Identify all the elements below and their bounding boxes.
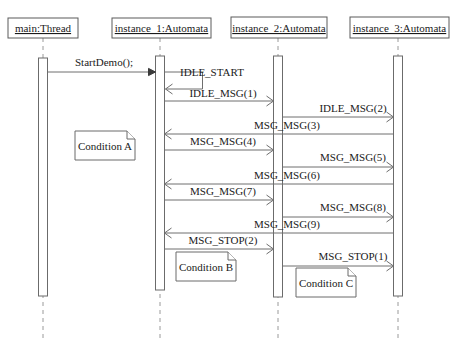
lifeline-label-instance_2: instance_2:Automata bbox=[232, 22, 326, 34]
sequence-diagram-canvas: main:Threadinstance_1:Automatainstance_2… bbox=[0, 0, 461, 343]
message-label-m12: MSG_STOP(2) bbox=[189, 234, 258, 247]
lifeline-label-instance_1: instance_1:Automata bbox=[115, 22, 209, 34]
message-label-m2: IDLE_START bbox=[180, 66, 244, 78]
message-m9[interactable]: MSG_MSG(7) bbox=[165, 185, 274, 205]
note-fold-icon-note_a bbox=[127, 131, 135, 139]
activation-bar-instance_3[interactable] bbox=[394, 56, 403, 296]
lifeline-main: main:Thread bbox=[8, 18, 78, 338]
lifeline-label-main: main:Thread bbox=[15, 22, 72, 34]
note-fold-icon-note_c bbox=[348, 268, 356, 276]
message-label-m10: MSG_MSG(8) bbox=[320, 201, 386, 214]
note-note_c[interactable]: Condition C bbox=[296, 268, 356, 297]
message-label-m4: IDLE_MSG(2) bbox=[319, 102, 387, 115]
message-label-m13: MSG_STOP(1) bbox=[319, 250, 388, 263]
activation-bar-main[interactable] bbox=[39, 58, 48, 296]
message-label-m1: StartDemo(); bbox=[75, 56, 133, 69]
arrowhead-m1 bbox=[149, 68, 156, 75]
message-m3[interactable]: IDLE_MSG(1) bbox=[165, 87, 274, 106]
note-note_b[interactable]: Condition B bbox=[176, 252, 236, 281]
note-label-note_c: Condition C bbox=[299, 277, 353, 289]
message-m6[interactable]: MSG_MSG(4) bbox=[165, 135, 274, 155]
message-label-m7: MSG_MSG(5) bbox=[320, 151, 386, 164]
sequence-diagram-svg: main:Threadinstance_1:Automatainstance_2… bbox=[0, 0, 461, 343]
message-label-m6: MSG_MSG(4) bbox=[190, 135, 256, 148]
message-label-m5: MSG_MSG(3) bbox=[254, 119, 320, 132]
message-label-m3: IDLE_MSG(1) bbox=[189, 87, 257, 100]
lifeline-instance_3: instance_3:Automata bbox=[350, 17, 449, 338]
note-label-note_a: Condition A bbox=[78, 140, 132, 152]
note-note_a[interactable]: Condition A bbox=[75, 131, 135, 160]
note-label-note_b: Condition B bbox=[179, 261, 233, 273]
message-m12[interactable]: MSG_STOP(2) bbox=[165, 234, 274, 254]
message-label-m9: MSG_MSG(7) bbox=[190, 185, 256, 198]
activation-bar-instance_1[interactable] bbox=[156, 56, 165, 290]
message-label-m11: MSG_MSG(9) bbox=[254, 218, 320, 231]
lifeline-label-instance_3: instance_3:Automata bbox=[353, 22, 447, 34]
message-m1[interactable]: StartDemo(); bbox=[48, 56, 156, 76]
message-label-m8: MSG_MSG(6) bbox=[254, 169, 320, 182]
